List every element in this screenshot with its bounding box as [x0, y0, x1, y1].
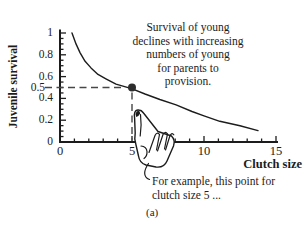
y-tick-label: 0.8 — [19, 48, 53, 61]
example-note-text: For example, this point for clutch size … — [152, 175, 275, 203]
x-tick-label: 10 — [193, 145, 215, 158]
annotation-line: numbers of young — [110, 48, 266, 62]
annotation-line: provision. — [110, 75, 266, 89]
y-tick-label: 0 — [19, 135, 53, 148]
subfigure-label: (a) — [146, 206, 158, 218]
note-line: clutch size 5 ... — [152, 189, 275, 203]
y-tick-label: 0.2 — [19, 113, 53, 126]
y-tick-label: 1 — [19, 26, 53, 39]
note-line: For example, this point for — [152, 175, 275, 189]
x-axis-title: Clutch size — [243, 157, 302, 172]
y-tick-label: 0.4 — [19, 91, 53, 104]
figure-clutch-size-survival-chart: Juvenile survival Clutch size Survival o… — [0, 0, 307, 231]
x-tick-label: 15 — [265, 145, 287, 158]
annotation-line: for parents to — [110, 62, 266, 76]
annotation-line: declines with increasing — [110, 35, 266, 49]
x-tick-label: 5 — [121, 145, 143, 158]
pointing-hand-icon — [134, 110, 174, 167]
annotation-line: Survival of young — [110, 21, 266, 35]
annotation-text: Survival of young declines with increasi… — [110, 21, 266, 89]
